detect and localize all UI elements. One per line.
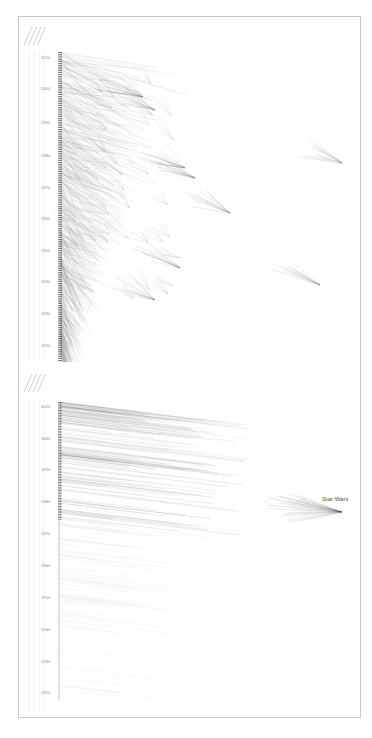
bottom-panel: 2010200019901980197019601950194019301920… <box>24 374 348 712</box>
svg-text:2000: 2000 <box>41 86 51 91</box>
svg-text:1980: 1980 <box>41 499 51 504</box>
svg-text:1980: 1980 <box>41 153 51 158</box>
svg-text:2010: 2010 <box>41 404 51 409</box>
top-rotated-labels <box>24 27 46 45</box>
star-wars-label: Star Wars <box>322 496 348 502</box>
svg-text:1990: 1990 <box>41 120 51 125</box>
svg-text:1920: 1920 <box>41 690 51 695</box>
svg-text:2010: 2010 <box>41 55 51 60</box>
svg-text:1970: 1970 <box>41 531 51 536</box>
svg-text:1920: 1920 <box>41 343 51 348</box>
bottom-guide-lines <box>24 400 44 712</box>
bottom-year-axis: 2010200019901980197019601950194019301920 <box>41 404 51 695</box>
top-links <box>58 52 188 362</box>
svg-text:1950: 1950 <box>41 595 51 600</box>
svg-text:1970: 1970 <box>41 185 51 190</box>
svg-text:1960: 1960 <box>41 563 51 568</box>
top-year-axis: 2010200019901980197019601950194019301920 <box>41 55 51 348</box>
bottom-rotated-labels <box>24 374 46 392</box>
svg-text:2000: 2000 <box>41 436 51 441</box>
film-reference-chart: 2010200019901980197019601950194019301920… <box>0 0 372 738</box>
svg-text:1940: 1940 <box>41 279 51 284</box>
bottom-links <box>58 402 249 701</box>
top-panel: 2010200019901980197019601950194019301920 <box>24 27 342 362</box>
svg-text:1930: 1930 <box>41 311 51 316</box>
svg-text:1990: 1990 <box>41 467 51 472</box>
svg-text:1960: 1960 <box>41 216 51 221</box>
svg-text:1930: 1930 <box>41 659 51 664</box>
svg-text:1950: 1950 <box>41 248 51 253</box>
svg-text:1940: 1940 <box>41 627 51 632</box>
